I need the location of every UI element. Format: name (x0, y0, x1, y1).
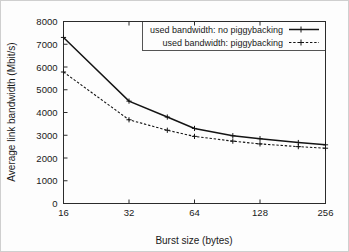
chart-legend: used bandwidth: no piggybacking used ban… (143, 22, 326, 51)
y-tick-label: 4000 (36, 107, 57, 118)
y-tick-label: 2000 (36, 153, 57, 164)
data-point-marker (230, 133, 235, 138)
data-point-marker (192, 134, 197, 139)
data-point-marker (296, 144, 301, 149)
data-point-marker (165, 114, 170, 119)
x-axis-ticks: 163264128256 (58, 22, 333, 218)
x-tick-label: 128 (252, 207, 268, 218)
x-tick-label: 64 (189, 207, 200, 218)
data-point-marker (165, 128, 170, 133)
x-axis-title: Burst size (bytes) (155, 235, 232, 246)
y-tick-label: 8000 (36, 16, 57, 27)
y-tick-label: 0 (52, 198, 57, 209)
legend-label-no-piggybacking: used bandwidth: no piggybacking (150, 25, 283, 35)
data-point-marker (230, 139, 235, 144)
y-axis-title: Average link bandwidth (Mbit/s) (6, 42, 17, 181)
data-point-marker (61, 69, 66, 74)
y-axis-ticks: 010002000300040005000600070008000 (36, 16, 67, 209)
legend-swatch-marker-no-piggybacking (298, 27, 304, 33)
data-point-marker (126, 117, 131, 122)
x-tick-label: 256 (318, 207, 334, 218)
data-point-marker (323, 146, 328, 151)
legend-swatch-marker-piggybacking (298, 40, 304, 46)
y-tick-label: 1000 (36, 175, 57, 186)
y-tick-label: 6000 (36, 62, 57, 73)
y-tick-label: 7000 (36, 39, 57, 50)
chart-figure: 010002000300040005000600070008000 163264… (0, 0, 349, 252)
line-chart: 010002000300040005000600070008000 163264… (1, 1, 349, 252)
data-point-marker (257, 141, 262, 146)
legend-label-piggybacking: used bandwidth: piggybacking (162, 38, 283, 48)
data-series-layer (61, 35, 328, 151)
x-tick-label: 16 (58, 207, 69, 218)
x-tick-label: 32 (124, 207, 135, 218)
plot-frame (64, 22, 326, 204)
y-tick-label: 5000 (36, 84, 57, 95)
data-point-marker (192, 126, 197, 131)
y-tick-label: 3000 (36, 130, 57, 141)
data-point-marker (257, 136, 262, 141)
